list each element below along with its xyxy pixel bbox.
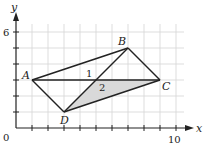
point-label-c: C [162, 80, 171, 93]
origin-label: 0 [3, 132, 9, 143]
axes [16, 16, 190, 128]
region-label-2: 2 [99, 82, 105, 93]
x-tick-label-10: 10 [168, 134, 181, 145]
point-label-b: B [117, 35, 126, 48]
point-label-d: D [59, 114, 69, 127]
region-label-1: 1 [86, 68, 92, 79]
coordinate-diagram: y x 6 10 0 A B C D 1 2 [0, 0, 213, 151]
y-tick-label-6: 6 [3, 27, 9, 38]
x-axis-arrow-icon [185, 125, 194, 131]
x-axis-label: x [196, 122, 203, 135]
point-label-a: A [21, 69, 30, 82]
y-axis-label: y [10, 1, 18, 14]
